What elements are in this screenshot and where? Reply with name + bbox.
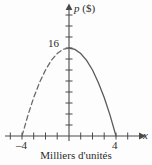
- x-axis-label: x: [143, 130, 148, 141]
- curve-dashed-branch: [22, 48, 69, 136]
- y-axis-label-symbol: p: [74, 2, 80, 14]
- parabola-figure: p ($) x 16 –4 4 Milliers d'unités: [0, 0, 152, 165]
- y-axis-arrow-icon: [66, 4, 73, 11]
- y-tick-label-16: 16: [48, 38, 59, 49]
- y-axis-label-unit: ($): [82, 2, 95, 14]
- curve-solid-branch: [69, 48, 116, 136]
- figure-caption: Milliers d'unités: [0, 150, 152, 161]
- y-axis-label: p ($): [74, 3, 95, 14]
